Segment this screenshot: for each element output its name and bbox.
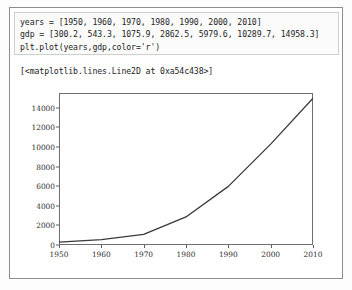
x-tick-label: 1960 xyxy=(92,250,111,259)
code-line-3: plt.plot(years,gdp,color='r') xyxy=(20,41,334,53)
x-tick-mark xyxy=(313,245,314,248)
line-series xyxy=(59,93,313,245)
x-tick-mark xyxy=(144,245,145,248)
y-tick-mark xyxy=(56,146,59,147)
matplotlib-figure: 02000400060008000100001200014000 1950196… xyxy=(15,84,338,274)
code-line-1: years = [1950, 1960, 1970, 1980, 1990, 2… xyxy=(20,16,334,28)
code-line-2: gdp = [300.2, 543.3, 1075.9, 2862.5, 597… xyxy=(20,28,334,40)
x-tick-label: 2010 xyxy=(304,250,323,259)
cell-output-text: [<matplotlib.lines.Line2D at 0xa54c438>] xyxy=(20,65,213,77)
x-tick-mark xyxy=(271,245,272,248)
notebook-screenshot: years = [1950, 1960, 1970, 1980, 1990, 2… xyxy=(0,0,352,290)
x-tick-label: 1950 xyxy=(50,250,69,259)
y-tick-mark xyxy=(56,186,59,187)
x-tick-label: 1990 xyxy=(219,250,238,259)
y-tick-label: 8000 xyxy=(36,162,55,171)
code-input-cell[interactable]: years = [1950, 1960, 1970, 1980, 1990, 2… xyxy=(14,12,339,55)
y-tick-mark xyxy=(56,225,59,226)
y-tick-label: 4000 xyxy=(36,201,55,210)
notebook-frame: years = [1950, 1960, 1970, 1980, 1990, 2… xyxy=(9,7,343,279)
y-tick-label: 12000 xyxy=(31,123,55,132)
y-tick-label: 14000 xyxy=(31,103,55,112)
x-tick-mark xyxy=(228,245,229,248)
y-tick-label: 6000 xyxy=(36,182,55,191)
x-tick-label: 1970 xyxy=(134,250,153,259)
x-tick-mark xyxy=(186,245,187,248)
y-tick-label: 0 xyxy=(50,241,55,250)
x-tick-mark xyxy=(101,245,102,248)
y-tick-mark xyxy=(56,166,59,167)
x-tick-label: 1980 xyxy=(177,250,196,259)
y-tick-mark xyxy=(56,127,59,128)
y-tick-label: 10000 xyxy=(31,142,55,151)
y-tick-mark xyxy=(56,107,59,108)
y-tick-label: 2000 xyxy=(36,221,55,230)
y-tick-mark xyxy=(56,205,59,206)
x-tick-label: 2000 xyxy=(261,250,280,259)
x-tick-mark xyxy=(59,245,60,248)
